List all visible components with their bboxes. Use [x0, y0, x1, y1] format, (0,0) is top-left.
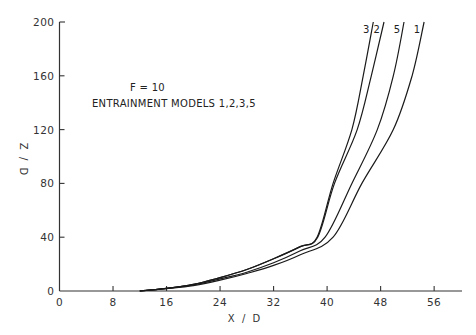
x-tick-label: 40 — [320, 296, 334, 308]
x-tick-label: 16 — [159, 296, 173, 308]
y-tick-label: 40 — [40, 231, 54, 243]
curve-model-1 — [140, 22, 424, 291]
annotation-models: ENTRAINMENT MODELS 1,2,3,5 — [92, 98, 256, 109]
annotation-froude: F = 10 — [130, 82, 165, 93]
x-tick-label: 32 — [266, 296, 280, 308]
curve-model-2 — [140, 22, 384, 291]
y-axis-title: Z / D — [18, 143, 29, 177]
x-tick-label: 8 — [109, 296, 116, 308]
y-tick-label: 160 — [33, 70, 55, 82]
trajectory-chart: 04080120160200 08162432404856 X / D Z / … — [0, 0, 476, 335]
y-tick-label: 0 — [47, 285, 54, 297]
y-tick-label: 120 — [33, 124, 55, 136]
curve-label-3: 3 — [363, 24, 369, 35]
x-tick-label: 56 — [427, 296, 441, 308]
y-tick-label: 80 — [40, 177, 54, 189]
curve-label-1: 1 — [414, 24, 420, 35]
x-tick-label: 24 — [213, 296, 227, 308]
curves — [140, 22, 424, 291]
curve-model-3 — [140, 22, 373, 291]
curve-label-2: 2 — [374, 24, 380, 35]
curve-model-5 — [140, 22, 404, 291]
x-ticks: 08162432404856 — [56, 286, 441, 308]
y-tick-label: 200 — [33, 16, 55, 28]
curve-label-5: 5 — [394, 24, 400, 35]
x-axis-title: X / D — [228, 313, 262, 324]
x-tick-label: 48 — [373, 296, 387, 308]
x-tick-label: 0 — [56, 296, 63, 308]
